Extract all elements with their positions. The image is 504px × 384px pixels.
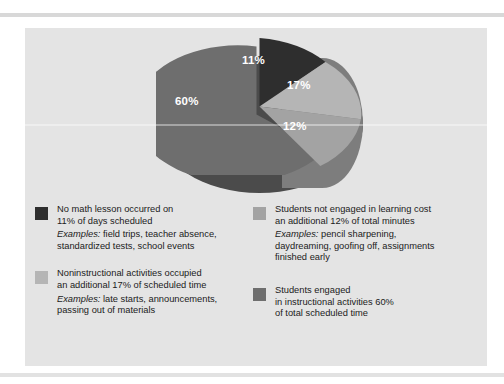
pie-label-12: 12% [283,120,307,132]
page-root: 11% 17% 12% 60% No math lesson occurred … [0,0,504,384]
legend-examples-label: Examples: [275,229,318,239]
legend-examples-text: pencil sharpening, [318,229,396,239]
legend-line: Noninstructional activities occupied [57,268,251,280]
legend-line: an additional 12% of total minutes [275,216,469,228]
legend-examples-label: Examples: [57,294,100,304]
legend-line: No math lesson occurred on [57,204,251,216]
legend-item-not-engaged: Students not engaged in learning cost an… [251,204,469,264]
legend-swatch-icon [253,207,266,220]
pie-label-60: 60% [175,95,199,107]
legend-line: Students engaged [275,285,469,297]
legend-item-noninstructional: Noninstructional activities occupied an … [33,268,251,316]
pie-chart: 11% 17% 12% 60% [25,34,487,216]
chart-legend: No math lesson occurred on 11% of days s… [25,204,487,362]
legend-line: 11% of days scheduled [57,216,251,228]
top-divider-rule [0,13,504,17]
legend-line: of total scheduled time [275,308,469,320]
pie-label-17: 17% [287,79,311,91]
legend-line: Students not engaged in learning cost [275,204,469,216]
legend-column-right: Students not engaged in learning cost an… [251,204,469,332]
legend-line: in instructional activities 60% [275,297,469,309]
legend-examples-text: finished early [275,252,469,264]
pie-label-11: 11% [242,54,265,66]
legend-swatch-icon [35,271,48,284]
legend-examples-line: Examples: pencil sharpening, [275,229,469,241]
legend-examples-text: daydreaming, goofing off, assignments [275,241,469,253]
bottom-divider-rule [0,373,504,377]
legend-examples-line: Examples: late starts, announcements, [57,294,251,306]
legend-examples-text: late starts, announcements, [100,294,217,304]
legend-examples-text: standardized tests, school events [57,241,251,253]
legend-examples-text: field trips, teacher absence, [100,229,216,239]
legend-column-left: No math lesson occurred on 11% of days s… [33,204,251,329]
legend-item-engaged: Students engaged in instructional activi… [251,285,469,320]
legend-examples-text: passing out of materials [57,305,251,317]
legend-examples-label: Examples: [57,229,100,239]
figure-panel: 11% 17% 12% 60% No math lesson occurred … [25,28,487,366]
legend-item-no-math-lesson: No math lesson occurred on 11% of days s… [33,204,251,252]
pie-graphic: 11% 17% 12% 60% [156,38,363,198]
legend-swatch-icon [253,288,266,301]
legend-swatch-icon [35,207,48,220]
legend-line: an additional 17% of scheduled time [57,280,251,292]
legend-examples-line: Examples: field trips, teacher absence, [57,229,251,241]
